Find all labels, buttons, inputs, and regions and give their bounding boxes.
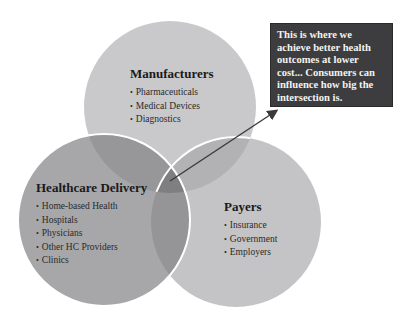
manufacturers-label: Manufacturers Pharmaceuticals Medical De… bbox=[130, 66, 214, 127]
list-item: Home-based Health bbox=[36, 200, 147, 214]
list-item: Medical Devices bbox=[130, 100, 214, 114]
callout-box: This is where we achieve better health o… bbox=[270, 23, 393, 107]
list-item: Government bbox=[224, 233, 277, 247]
list-item: Insurance bbox=[224, 219, 277, 233]
healthcare-delivery-label: Healthcare Delivery Home-based Health Ho… bbox=[36, 180, 147, 268]
list-item: Employers bbox=[224, 246, 277, 260]
payers-label: Payers Insurance Government Employers bbox=[224, 199, 277, 260]
payers-title: Payers bbox=[224, 199, 277, 215]
callout-text: This is where we achieve better health o… bbox=[277, 29, 375, 103]
healthcare-delivery-title: Healthcare Delivery bbox=[36, 180, 147, 196]
manufacturers-title: Manufacturers bbox=[130, 66, 214, 82]
list-item: Diagnostics bbox=[130, 113, 214, 127]
list-item: Other HC Providers bbox=[36, 241, 147, 255]
list-item: Pharmaceuticals bbox=[130, 86, 214, 100]
list-item: Hospitals bbox=[36, 214, 147, 228]
list-item: Physicians bbox=[36, 227, 147, 241]
healthcare-delivery-list: Home-based Health Hospitals Physicians O… bbox=[36, 200, 147, 268]
payers-list: Insurance Government Employers bbox=[224, 219, 277, 260]
manufacturers-list: Pharmaceuticals Medical Devices Diagnost… bbox=[130, 86, 214, 127]
list-item: Clinics bbox=[36, 254, 147, 268]
